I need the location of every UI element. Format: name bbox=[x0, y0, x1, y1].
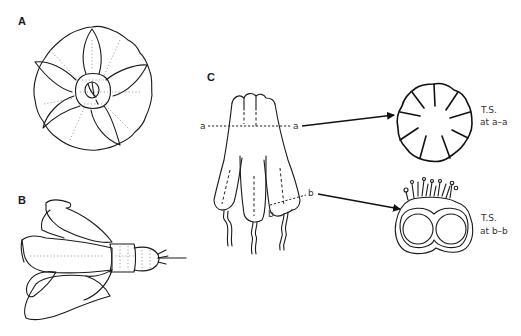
arrow-to-ts-a bbox=[302, 115, 394, 126]
panel-b-label: B bbox=[18, 194, 26, 206]
panel-b: B bbox=[18, 194, 186, 320]
ts-a-label-line2: at a–a bbox=[480, 117, 507, 127]
panel-c-label: C bbox=[207, 71, 215, 83]
section-marker-a-left: a bbox=[200, 121, 206, 131]
section-marker-b-lower: b bbox=[268, 209, 274, 219]
panel-a-label: A bbox=[18, 15, 26, 27]
ts-a-circle-icon bbox=[397, 83, 472, 161]
ts-b-label-line1: T.S. bbox=[480, 213, 497, 223]
arrow-to-ts-b bbox=[318, 194, 400, 209]
ts-b-label-line2: at b–b bbox=[480, 226, 508, 236]
panel-c: C a a b b bbox=[200, 71, 400, 254]
flower-side-view-icon bbox=[21, 200, 186, 320]
cross-section-b: T.S. at b–b bbox=[395, 178, 508, 254]
botanical-figure: A B bbox=[0, 0, 521, 336]
section-line-b bbox=[270, 195, 306, 205]
ts-b-twin-locule-icon bbox=[395, 178, 473, 254]
panel-a: A bbox=[18, 15, 152, 150]
section-marker-b-right: b bbox=[308, 188, 314, 198]
cross-section-a: T.S. at a–a bbox=[397, 83, 507, 161]
flower-top-view-icon bbox=[34, 26, 152, 150]
anther-cone-icon bbox=[214, 94, 300, 254]
section-marker-a-right: a bbox=[293, 121, 299, 131]
ts-a-label-line1: T.S. bbox=[480, 105, 497, 115]
